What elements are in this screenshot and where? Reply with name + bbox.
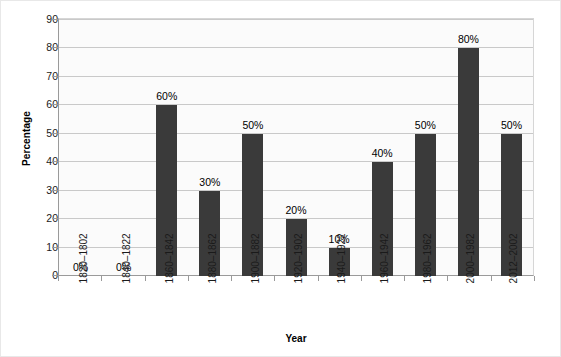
bar-value-label: 50%	[501, 119, 522, 131]
x-tick-mark	[534, 276, 535, 281]
x-label-slot: 1922–1940	[318, 282, 361, 330]
x-tick-mark	[231, 276, 232, 281]
x-category-label-text: 1902–1920	[293, 233, 304, 283]
bar-value-label: 80%	[458, 33, 479, 45]
x-category-label-text: 1822–1840	[120, 233, 131, 283]
x-category-label-text: 1982–2000	[465, 233, 476, 283]
bar-value-label: 50%	[242, 119, 263, 131]
bar-value-label: 20%	[286, 204, 307, 216]
x-category-label-text: 1882–1900	[250, 233, 261, 283]
x-label-slot: 1982–2000	[447, 282, 490, 330]
x-axis-category-labels: 1802–18201822–18401842–18601862–18801882…	[59, 282, 533, 330]
x-tick-mark	[145, 276, 146, 281]
x-tick-mark	[361, 276, 362, 281]
x-label-slot: 1962–1980	[404, 282, 447, 330]
x-label-slot: 1842–1860	[145, 282, 188, 330]
x-category-label-text: 1862–1880	[206, 233, 217, 283]
x-label-slot: 1942–1960	[361, 282, 404, 330]
x-tick-mark	[404, 276, 405, 281]
bar-chart-figure: Percentage 0102030405060708090 0%0%60%30…	[0, 0, 561, 357]
x-label-slot: 1822–1840	[102, 282, 145, 330]
x-tick-mark	[101, 276, 102, 281]
x-category-label-text: 1962–1980	[422, 233, 433, 283]
x-tick-mark	[274, 276, 275, 281]
x-tick-mark	[318, 276, 319, 281]
bar-value-label: 60%	[156, 90, 177, 102]
x-category-label-text: 1942–1960	[379, 233, 390, 283]
x-label-slot: 1862–1880	[188, 282, 231, 330]
x-label-slot: 2002–2012	[490, 282, 533, 330]
bar-value-label: 40%	[372, 147, 393, 159]
x-category-label-text: 1842–1860	[163, 233, 174, 283]
x-tick-mark	[58, 276, 59, 281]
x-category-label-text: 1922–1940	[336, 233, 347, 283]
x-tick-mark	[447, 276, 448, 281]
x-axis-title: Year	[58, 333, 534, 344]
x-label-slot: 1802–1820	[59, 282, 102, 330]
y-axis-ticks: 0102030405060708090	[1, 1, 58, 357]
x-label-slot: 1882–1900	[231, 282, 274, 330]
x-label-slot: 1902–1920	[274, 282, 317, 330]
x-category-label-text: 2002–2012	[508, 233, 519, 283]
x-tick-mark	[491, 276, 492, 281]
bar-value-label: 50%	[415, 119, 436, 131]
x-tick-mark	[188, 276, 189, 281]
bar-value-label: 30%	[199, 176, 220, 188]
x-category-label-text: 1802–1820	[77, 233, 88, 283]
